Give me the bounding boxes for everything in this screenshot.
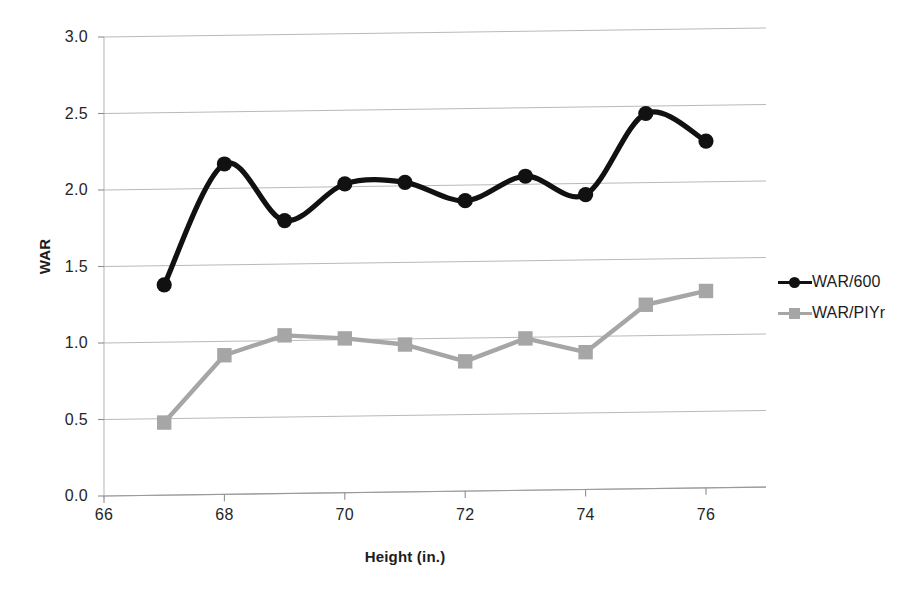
data-point-marker: [458, 193, 473, 208]
data-point-marker: [518, 169, 533, 184]
series-war-piyr: [157, 284, 713, 430]
data-point-marker: [398, 337, 412, 351]
data-point-marker: [578, 187, 593, 202]
chart-legend: WAR/600 WAR/PIYr: [778, 266, 917, 328]
data-point-marker: [458, 354, 472, 368]
data-point-marker: [217, 156, 232, 171]
legend-item-war-600[interactable]: WAR/600: [778, 266, 917, 297]
legend-swatch-circle-icon: [778, 275, 812, 289]
data-point-marker: [698, 133, 713, 148]
series-line: [164, 291, 706, 423]
x-axis-line: [104, 487, 766, 496]
gridline: [104, 334, 766, 343]
data-point-marker: [338, 331, 352, 345]
data-point-marker: [157, 277, 172, 292]
gridline: [104, 258, 766, 267]
legend-item-war-piyr[interactable]: WAR/PIYr: [778, 297, 917, 328]
data-point-marker: [518, 331, 532, 345]
legend-label: WAR/PIYr: [812, 304, 885, 322]
chart-container: WAR Height (in.) 0.00.51.01.52.02.53.0 6…: [0, 0, 917, 595]
legend-label: WAR/600: [812, 273, 881, 291]
data-point-marker: [578, 345, 592, 359]
data-point-marker: [157, 415, 171, 429]
gridline: [104, 411, 766, 420]
data-point-marker: [699, 284, 713, 298]
legend-swatch-square-icon: [778, 306, 812, 320]
gridline: [104, 28, 766, 37]
data-point-marker: [277, 328, 291, 342]
gridline: [104, 105, 766, 114]
data-point-marker: [217, 348, 231, 362]
data-point-marker: [337, 176, 352, 191]
data-point-marker: [638, 106, 653, 121]
data-point-marker: [277, 213, 292, 228]
data-point-marker: [397, 175, 412, 190]
data-point-marker: [639, 298, 653, 312]
